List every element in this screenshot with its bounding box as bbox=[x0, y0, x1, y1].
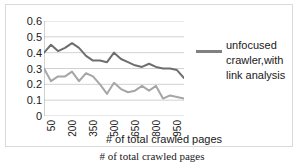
chart-frame: 00.10.20.30.40.50.6 50200350500650800950… bbox=[5, 4, 293, 147]
x-axis-title: # of total crawled pages bbox=[84, 133, 244, 145]
plot-area bbox=[44, 21, 184, 116]
legend: unfocused crawler,with link analysis bbox=[196, 38, 296, 83]
series-lines bbox=[44, 21, 184, 116]
legend-entry: unfocused crawler,with link analysis bbox=[196, 38, 296, 83]
y-tick-label: 0.3 bbox=[12, 63, 42, 75]
x-tick-label: 200 bbox=[67, 120, 78, 137]
y-tick-label: 0.2 bbox=[12, 78, 42, 90]
y-tick-label: 0.5 bbox=[12, 31, 42, 43]
figure-caption: # of total crawled pages bbox=[0, 150, 304, 162]
y-tick-label: 0.1 bbox=[12, 94, 42, 106]
y-tick-label: 0.6 bbox=[12, 15, 42, 27]
figure: 00.10.20.30.40.50.6 50200350500650800950… bbox=[0, 0, 304, 168]
y-tick-label: 0.4 bbox=[12, 47, 42, 59]
legend-swatch-icon bbox=[196, 50, 222, 53]
y-axis: 00.10.20.30.40.50.6 bbox=[12, 15, 42, 122]
y-tick-label: 0 bbox=[12, 110, 42, 122]
x-tick-label: 50 bbox=[46, 120, 57, 131]
legend-label: unfocused crawler,with link analysis bbox=[226, 38, 296, 83]
